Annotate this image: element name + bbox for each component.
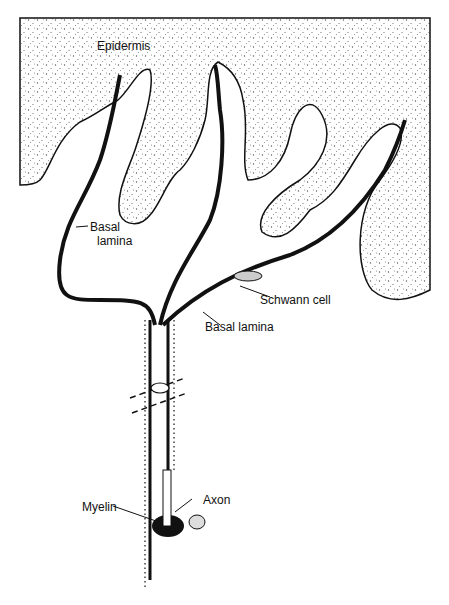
- leader-lines: [76, 226, 270, 521]
- epidermis-region: [20, 18, 430, 299]
- schwann-cell: [234, 271, 262, 281]
- label-schwann-cell: Schwann cell: [260, 294, 331, 307]
- nerve-ending-diagram: Epidermis Basal lamina Schwann cell Basa…: [0, 0, 449, 605]
- label-basal-lamina-2: Basal lamina: [205, 321, 274, 334]
- label-myelin: Myelin: [82, 501, 117, 514]
- label-axon: Axon: [203, 494, 230, 507]
- nerve-trunk: [150, 320, 168, 580]
- axon: [163, 470, 171, 526]
- label-basal-lamina-1b: lamina: [97, 235, 132, 248]
- label-basal-lamina-1a: Basal: [90, 221, 120, 234]
- diagram-artwork: [0, 0, 449, 605]
- label-epidermis: Epidermis: [97, 40, 150, 53]
